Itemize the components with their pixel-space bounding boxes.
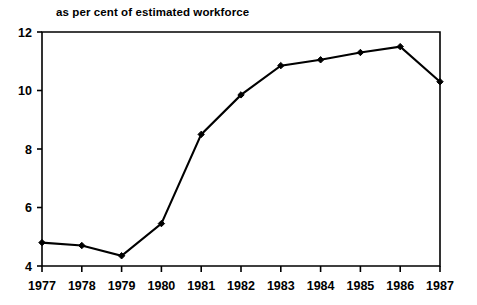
data-point-markers bbox=[39, 43, 443, 259]
x-axis-tick-label: 1980 bbox=[147, 279, 175, 293]
plot-frame bbox=[42, 32, 440, 266]
data-point-marker bbox=[79, 242, 85, 248]
x-axis-tick-label: 1982 bbox=[227, 279, 255, 293]
data-point-marker bbox=[317, 57, 323, 63]
y-axis-tick-label: 10 bbox=[18, 84, 32, 98]
x-axis-tick-label: 1977 bbox=[28, 279, 56, 293]
chart-container: as per cent of estimated workforce 46810… bbox=[0, 0, 477, 305]
y-axis-tick-label: 4 bbox=[25, 260, 32, 274]
x-axis-tick-label: 1987 bbox=[426, 279, 454, 293]
line-chart-plot: 4681012 19771978197919801981198219831984… bbox=[0, 0, 477, 305]
x-axis-tick-label: 1984 bbox=[307, 279, 335, 293]
x-axis-tick-label: 1985 bbox=[346, 279, 374, 293]
x-axis-tick-label: 1978 bbox=[68, 279, 96, 293]
x-axis-tick-label: 1983 bbox=[267, 279, 295, 293]
y-axis-tick-label: 8 bbox=[25, 143, 32, 157]
data-point-marker bbox=[39, 239, 45, 245]
x-axis-tick-label: 1981 bbox=[187, 279, 215, 293]
data-point-marker bbox=[357, 49, 363, 55]
data-series-unemployment bbox=[42, 47, 440, 256]
y-axis: 4681012 bbox=[18, 26, 42, 274]
x-axis-tick-label: 1986 bbox=[386, 279, 414, 293]
x-axis-tick-label: 1979 bbox=[108, 279, 136, 293]
x-axis: 1977197819791980198119821983198419851986… bbox=[28, 266, 454, 293]
y-axis-tick-label: 12 bbox=[18, 26, 32, 40]
y-axis-tick-label: 6 bbox=[25, 201, 32, 215]
